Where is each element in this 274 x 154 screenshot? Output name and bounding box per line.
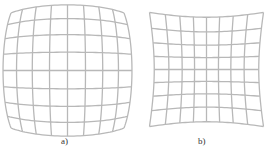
vertical-grid-line <box>150 13 155 127</box>
horizontal-grid-line <box>150 122 264 127</box>
barrel-grid <box>150 13 264 127</box>
vertical-grid-line <box>259 13 264 127</box>
panel-b-label: b) <box>198 137 206 146</box>
horizontal-grid-line <box>150 13 264 18</box>
panel-a-label: a) <box>61 137 68 146</box>
distortion-figure <box>0 0 274 154</box>
pincushion-grid <box>3 5 132 136</box>
